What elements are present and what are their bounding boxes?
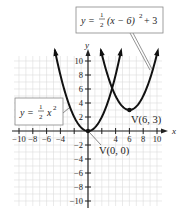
eq2-lhs: y = [80, 15, 95, 26]
x-tick-label: 4 [113, 134, 118, 144]
y-tick-label: 8 [79, 70, 83, 80]
y-axis-label: y [84, 40, 89, 50]
leader-line-eq1 [63, 108, 69, 113]
y-tick-label: −2 [74, 140, 83, 150]
eq2-rhs: (x − 6) [107, 15, 136, 27]
vertex-label-v00: V(0, 0) [99, 145, 130, 157]
y-tick-label: 6 [79, 84, 83, 94]
x-tick-label: −8 [28, 134, 37, 144]
y-tick-label: −6 [74, 168, 83, 178]
eq2-exp: 2 [139, 12, 143, 20]
eq2-tail: + 3 [144, 15, 157, 26]
x-tick-label: −10 [12, 134, 25, 144]
equation-box-1: y = 1 2 x 2 [15, 98, 63, 125]
x-axis-arrow-icon [161, 129, 168, 134]
leader-line-eq2b [133, 33, 152, 69]
eq2-frac-den: 2 [100, 21, 104, 29]
x-tick-label: −4 [56, 134, 66, 144]
x-tick-label: −6 [42, 134, 51, 144]
y-tick-label: −8 [74, 182, 83, 192]
eq2-frac-num: 1 [100, 11, 104, 19]
eq1-rhs: x [46, 107, 52, 118]
x-tick-label: 10 [153, 134, 162, 144]
eq1-frac-num: 1 [39, 103, 43, 111]
y-tick-label: 2 [79, 112, 83, 122]
y-axis-arrow-icon [86, 49, 91, 56]
vertex-point-6-3 [127, 108, 131, 112]
y-tick-label: 10 [75, 56, 84, 66]
x-tick-label: 8 [141, 134, 145, 144]
eq1-frac-den: 2 [39, 113, 43, 121]
leader-line-eq2a [130, 33, 150, 70]
eq1-exp: 2 [53, 104, 57, 112]
x-axis-label: x [171, 126, 176, 136]
vertex-point-origin [86, 129, 90, 133]
leader-line-v00 [90, 133, 101, 145]
x-tick-label: 6 [127, 134, 131, 144]
y-tick-label: −4 [74, 154, 84, 164]
equation-box-2: y = 1 2 (x − 6) 2 + 3 [76, 7, 163, 33]
eq1-lhs: y = [19, 107, 34, 118]
vertex-label-v63: V(6, 3) [131, 114, 162, 126]
y-tick-label: −10 [70, 196, 83, 206]
parabola-graph: −10−8−6−446810108642−2−4−6−8−10 x y V(0,… [0, 0, 186, 214]
